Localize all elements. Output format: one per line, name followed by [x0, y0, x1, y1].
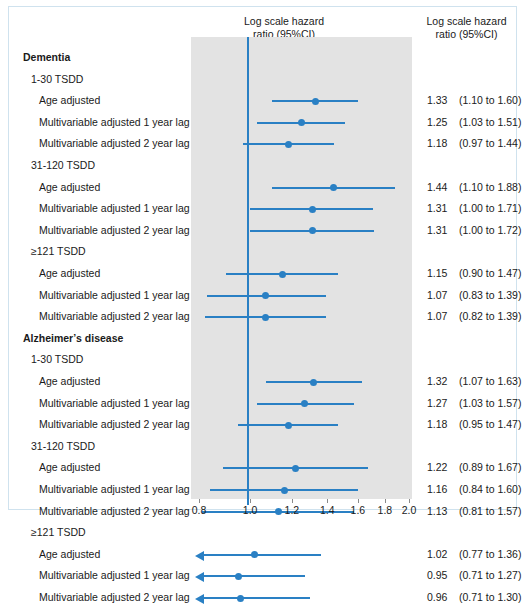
axis-tick-label: 1.0	[243, 504, 258, 516]
axis-tick-mark	[385, 499, 386, 503]
hazard-ratio-estimate: 1.18	[427, 137, 455, 149]
confidence-interval-line	[204, 554, 321, 556]
hazard-ratio-estimate: 1.44	[427, 181, 455, 193]
confidence-interval-text: (0.95 to 1.47)	[459, 418, 521, 430]
point-estimate-marker	[285, 422, 292, 429]
row-label: Multivariable adjusted 1 year lag	[39, 202, 190, 214]
hazard-ratio-estimate: 1.16	[427, 483, 455, 495]
point-estimate-marker	[281, 487, 288, 494]
axis-tick-mark	[409, 499, 410, 503]
confidence-interval-text: (0.89 to 1.67)	[459, 461, 521, 473]
confidence-interval-text: (1.10 to 1.60)	[459, 94, 521, 106]
point-estimate-marker	[285, 141, 292, 148]
point-estimate-marker	[312, 98, 319, 105]
confidence-interval-text: (0.97 to 1.44)	[459, 137, 521, 149]
group-label: Alzheimerʼs disease	[23, 332, 123, 344]
axis-tick-mark	[250, 499, 251, 503]
axis-tick-label: 1.6	[351, 504, 366, 516]
row-label: Multivariable adjusted 1 year lag	[39, 116, 190, 128]
row-label: Age adjusted	[39, 181, 100, 193]
subgroup-label: ≥121 TSDD	[31, 245, 86, 257]
hazard-ratio-estimate: 1.31	[427, 202, 455, 214]
reference-line-at-1	[247, 37, 249, 505]
hazard-ratio-estimate: 1.13	[427, 505, 455, 517]
value-column-header: Log scale hazard ratio (95%CI)	[409, 15, 524, 40]
hazard-ratio-estimate: 1.33	[427, 94, 455, 106]
point-estimate-marker	[262, 314, 269, 321]
hazard-ratio-estimate: 1.32	[427, 375, 455, 387]
point-estimate-marker	[309, 227, 316, 234]
axis-tick-label: 2.0	[402, 504, 417, 516]
confidence-interval-line	[204, 575, 305, 577]
axis-tick-mark	[327, 499, 328, 503]
hazard-ratio-estimate: 1.18	[427, 418, 455, 430]
row-label: Multivariable adjusted 1 year lag	[39, 397, 190, 409]
point-estimate-marker	[237, 595, 244, 602]
confidence-interval-text: (0.71 to 1.27)	[459, 569, 521, 581]
axis-tick-label: 0.8	[192, 504, 207, 516]
row-label: Multivariable adjusted 2 year lag	[39, 591, 190, 603]
forest-plot-figure: Log scale hazard ratio (95%CI) Log scale…	[8, 6, 517, 510]
hazard-ratio-estimate: 0.96	[427, 591, 455, 603]
hazard-ratio-estimate: 1.22	[427, 461, 455, 473]
axis-tick-label: 1.8	[378, 504, 393, 516]
confidence-interval-text: (1.03 to 1.57)	[459, 397, 521, 409]
hazard-ratio-estimate: 1.27	[427, 397, 455, 409]
hazard-ratio-estimate: 1.15	[427, 267, 455, 279]
subgroup-label: 1-30 TSDD	[31, 353, 83, 365]
confidence-interval-text: (1.03 to 1.51)	[459, 116, 521, 128]
ci-left-arrow-icon	[195, 551, 204, 561]
axis-tick-mark	[199, 499, 200, 503]
row-label: Multivariable adjusted 1 year lag	[39, 289, 190, 301]
hazard-ratio-estimate: 1.02	[427, 548, 455, 560]
point-estimate-marker	[310, 379, 317, 386]
axis-tick-label: 1.4	[320, 504, 335, 516]
confidence-interval-text: (0.83 to 1.39)	[459, 289, 521, 301]
plot-band	[191, 37, 412, 499]
row-label: Age adjusted	[39, 267, 100, 279]
row-label: Multivariable adjusted 2 year lag	[39, 137, 190, 149]
confidence-interval-text: (1.00 to 1.71)	[459, 202, 521, 214]
confidence-interval-text: (1.00 to 1.72)	[459, 224, 521, 236]
ci-left-arrow-icon	[195, 594, 204, 604]
axis-tick-mark	[358, 499, 359, 503]
group-label: Dementia	[23, 51, 70, 63]
confidence-interval-line	[204, 597, 310, 599]
hazard-ratio-estimate: 1.31	[427, 224, 455, 236]
subgroup-label: 31-120 TSDD	[31, 440, 95, 452]
hazard-ratio-estimate: 1.25	[427, 116, 455, 128]
point-estimate-marker	[279, 271, 286, 278]
confidence-interval-text: (0.77 to 1.36)	[459, 548, 521, 560]
row-label-column: Dementia1-30 TSDDAge adjustedMultivariab…	[9, 7, 191, 511]
confidence-interval-text: (0.82 to 1.39)	[459, 310, 521, 322]
row-label: Multivariable adjusted 1 year lag	[39, 569, 190, 581]
confidence-interval-text: (0.81 to 1.57)	[459, 505, 521, 517]
confidence-interval-text: (1.07 to 1.63)	[459, 375, 521, 387]
row-label: Age adjusted	[39, 548, 100, 560]
row-label: Multivariable adjusted 2 year lag	[39, 418, 190, 430]
hazard-ratio-estimate: 1.07	[427, 310, 455, 322]
row-label: Multivariable adjusted 1 year lag	[39, 483, 190, 495]
ci-left-arrow-icon	[195, 572, 204, 582]
row-label: Multivariable adjusted 2 year lag	[39, 310, 190, 322]
point-estimate-marker	[275, 508, 282, 515]
point-estimate-marker	[309, 206, 316, 213]
subgroup-label: ≥121 TSDD	[31, 526, 86, 538]
row-label: Age adjusted	[39, 94, 100, 106]
row-label: Age adjusted	[39, 375, 100, 387]
axis-tick-label: 1.2	[285, 504, 300, 516]
point-estimate-marker	[251, 551, 258, 558]
point-estimate-marker	[235, 573, 242, 580]
confidence-interval-text: (0.71 to 1.30)	[459, 591, 521, 603]
hazard-ratio-estimate: 0.95	[427, 569, 455, 581]
row-label: Multivariable adjusted 2 year lag	[39, 224, 190, 236]
axis-tick-mark	[292, 499, 293, 503]
subgroup-label: 31-120 TSDD	[31, 159, 95, 171]
confidence-interval-text: (0.84 to 1.60)	[459, 483, 521, 495]
row-label: Multivariable adjusted 2 year lag	[39, 505, 190, 517]
confidence-interval-text: (1.10 to 1.88)	[459, 181, 521, 193]
hazard-ratio-estimate: 1.07	[427, 289, 455, 301]
subgroup-label: 1-30 TSDD	[31, 73, 83, 85]
row-label: Age adjusted	[39, 461, 100, 473]
confidence-interval-text: (0.90 to 1.47)	[459, 267, 521, 279]
